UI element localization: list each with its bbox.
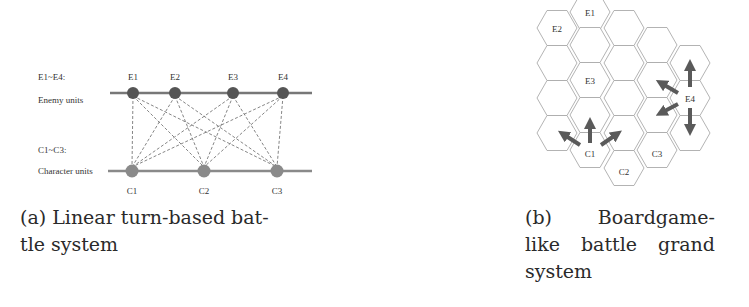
hex-cell <box>637 63 677 98</box>
dashed-relation-line <box>132 96 233 167</box>
hex-label-E3: E3 <box>585 76 595 86</box>
hex-label-C2: C2 <box>619 167 630 177</box>
hex-cell <box>604 116 644 151</box>
caption-b-line3: system <box>525 258 715 285</box>
enemy-legend-desc: Enemy units <box>38 95 84 105</box>
enemy-unit-E4: E4 <box>277 72 289 99</box>
hex-cells <box>537 0 710 186</box>
attack-relation-lines <box>132 96 283 167</box>
caption-a-line2: tle system <box>20 231 320 258</box>
character-label: C2 <box>199 186 210 196</box>
dashed-relation-line <box>132 96 133 167</box>
enemy-unit-E2: E2 <box>169 72 181 99</box>
hex-cell <box>570 28 610 63</box>
hex-cell <box>604 11 644 46</box>
dashed-relation-line <box>277 96 283 167</box>
caption-b-word: grand <box>658 231 715 258</box>
dashed-relation-line <box>175 96 277 167</box>
enemy-node <box>169 87 181 99</box>
enemy-node <box>227 87 239 99</box>
enemy-node <box>127 87 139 99</box>
hex-cell <box>537 116 577 151</box>
character-node <box>198 165 211 178</box>
hex-grid-diagram: E1 E2 E3 E4 C1 C2 C3 <box>520 0 749 200</box>
character-node <box>126 165 139 178</box>
caption-b-word: (b) <box>525 204 552 231</box>
caption-b-word: battle <box>581 231 637 258</box>
hex-cell <box>637 28 677 63</box>
caption-b: (b) Boardgame- like battle grand system <box>525 204 715 285</box>
character-unit-C2: C2 <box>198 165 211 197</box>
enemy-label: E3 <box>228 72 238 82</box>
caption-a-line1: (a) Linear turn-based bat- <box>20 204 320 231</box>
hex-cell <box>604 46 644 81</box>
hex-cell <box>537 81 577 116</box>
dashed-relation-line <box>175 96 204 167</box>
caption-b-word: Boardgame- <box>598 204 715 231</box>
character-legend-desc: Character units <box>38 166 93 176</box>
hex-cell <box>537 46 577 81</box>
hex-label-C3: C3 <box>652 149 663 159</box>
caption-b-line1: (b) Boardgame- <box>525 204 715 231</box>
dashed-relation-line <box>132 96 283 167</box>
figure-b-hex-board: E1 E2 E3 E4 C1 C2 C3 <box>520 0 749 200</box>
caption-b-word: like <box>525 231 560 258</box>
character-unit-C1: C1 <box>126 165 139 197</box>
hex-label-E2: E2 <box>552 24 562 34</box>
dashed-relation-line <box>204 96 283 167</box>
figure-a-linear-battle: E1~E4: Enemy units C1~C3: Character unit… <box>0 0 330 200</box>
character-label: C3 <box>272 186 283 196</box>
hex-cell <box>637 98 677 133</box>
hex-label-E4: E4 <box>685 94 695 104</box>
enemy-label: E1 <box>128 72 138 82</box>
caption-b-line2: like battle grand <box>525 231 715 258</box>
character-node <box>271 165 284 178</box>
character-label: C1 <box>127 186 138 196</box>
enemy-legend-title: E1~E4: <box>38 72 65 82</box>
linear-battle-diagram: E1~E4: Enemy units C1~C3: Character unit… <box>0 0 330 200</box>
hex-cell <box>604 81 644 116</box>
caption-a: (a) Linear turn-based bat- tle system <box>20 204 320 258</box>
enemy-label: E4 <box>278 72 288 82</box>
hex-label-E1: E1 <box>585 8 595 18</box>
character-legend-title: C1~C3: <box>38 145 66 155</box>
hex-label-C1: C1 <box>585 149 596 159</box>
enemy-node <box>277 87 289 99</box>
enemy-unit-E1: E1 <box>127 72 139 99</box>
enemy-unit-E3: E3 <box>227 72 239 99</box>
character-unit-C3: C3 <box>271 165 284 197</box>
enemy-label: E2 <box>170 72 180 82</box>
